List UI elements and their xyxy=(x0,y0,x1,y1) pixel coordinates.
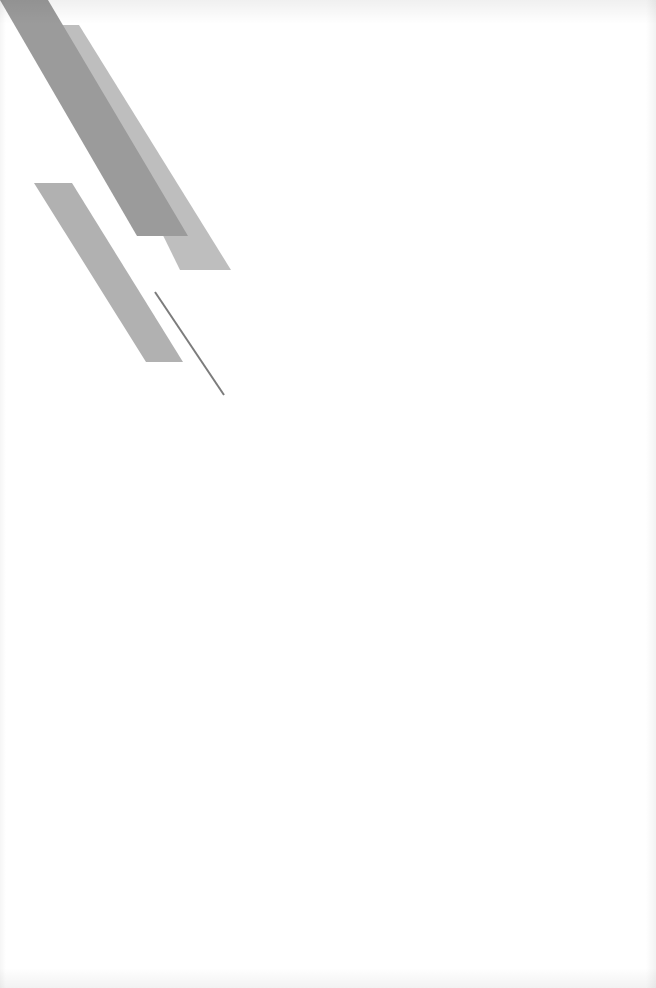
scan-shade-left xyxy=(0,0,6,988)
dark-diagonal-stripe xyxy=(0,0,188,236)
scan-shade-bottom xyxy=(0,968,656,988)
scan-shade-right xyxy=(646,0,656,988)
document-page xyxy=(0,0,656,988)
diagonal-stripes-decoration xyxy=(0,0,656,988)
scan-shade-top xyxy=(0,0,656,24)
